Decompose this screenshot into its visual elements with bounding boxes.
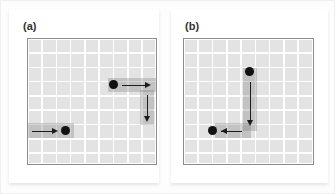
panel-a: (a) [9,9,159,183]
panel-b-plot-area [183,38,314,165]
arrow-b-down-head [247,120,253,126]
arrow-a-right-bottom-head [52,128,58,134]
marker-b2 [208,126,217,135]
arrow-a-down-right-shaft [147,95,148,117]
panel-b-label: (b) [185,20,199,32]
figure-canvas: (a) (b) [0,0,335,194]
panel-a-plot-area [27,38,157,165]
panel-a-label: (a) [23,20,36,32]
arrow-a-right-bottom-shaft [32,131,53,132]
arrow-b-down-shaft [250,82,251,121]
arrow-a-down-right-head [144,116,150,122]
panel-b-overlay [184,39,313,164]
arrow-a-right-top-head [145,82,151,88]
panel-a-overlay [28,39,156,164]
arrow-b-left-head [221,128,227,134]
marker-a2 [61,126,70,135]
arrow-a-right-top-shaft [122,85,146,86]
panel-b: (b) [171,9,328,183]
